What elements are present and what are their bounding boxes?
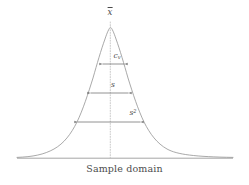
figure-canvas (0, 0, 249, 185)
cv-symbol-subscript: v (118, 54, 121, 60)
std-dev-symbol: s (111, 80, 115, 89)
mean-label: x (108, 8, 113, 17)
variance-symbol-exponent: 2 (133, 108, 136, 114)
mean-symbol: x (108, 8, 113, 17)
bell-curve-path (17, 27, 233, 157)
cv-label: cv (113, 52, 120, 60)
distribution-figure: x cv s s2 Sample domain (0, 0, 249, 185)
variance-label: s2 (129, 109, 136, 117)
std-dev-label: s (111, 81, 115, 89)
x-axis-caption: Sample domain (0, 163, 249, 174)
